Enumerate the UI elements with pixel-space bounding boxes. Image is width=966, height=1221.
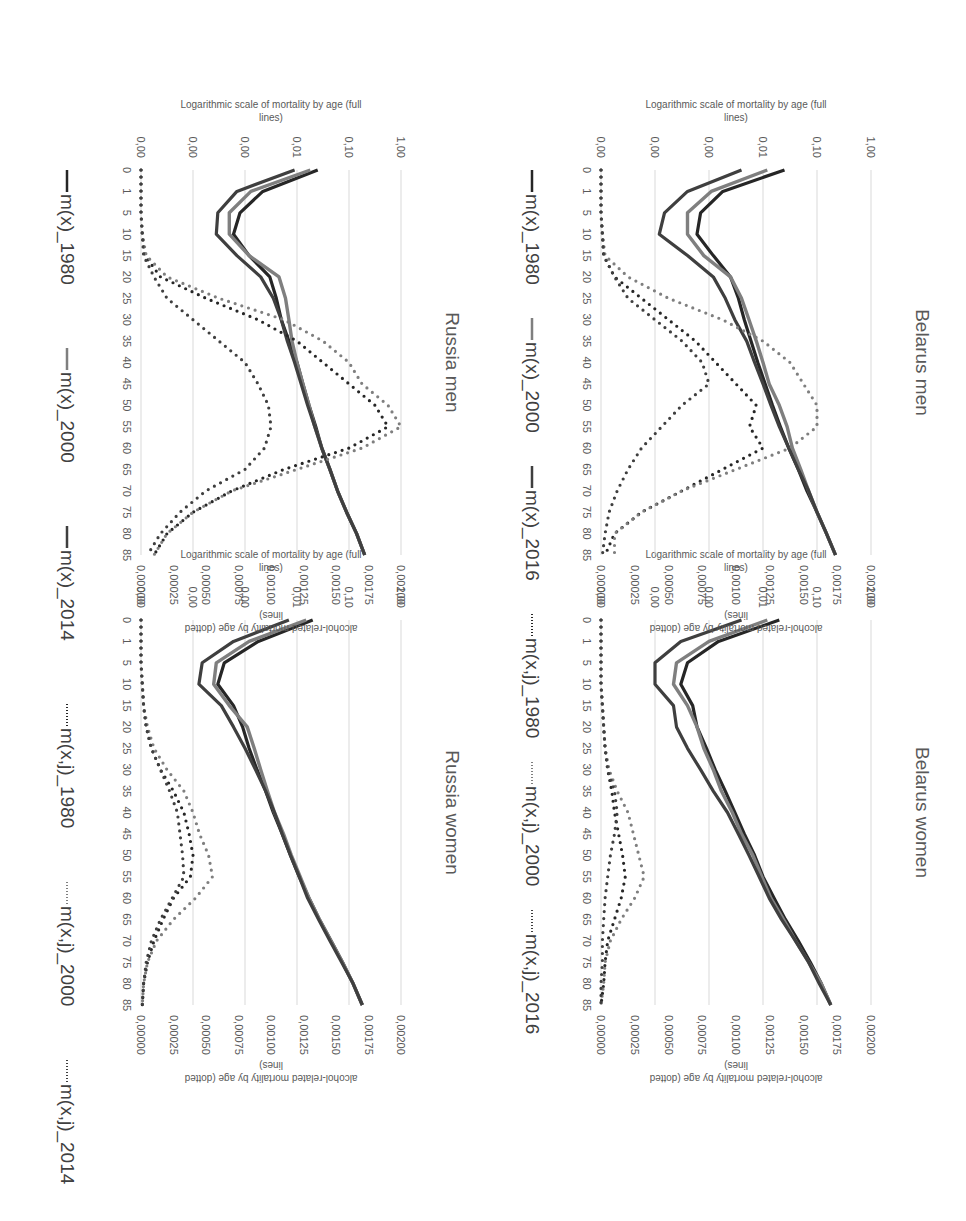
x-axis-tick: 35 — [121, 335, 133, 347]
x-axis-tick: 10 — [581, 678, 593, 690]
x-axis-tick: 40 — [121, 356, 133, 368]
right-axis-tick: 0,00200 — [395, 1015, 407, 1055]
x-axis-tick: 1 — [581, 638, 593, 644]
right-axis-tick: 0,00175 — [831, 565, 843, 605]
left-axis-tick: 0,00 — [187, 587, 199, 608]
x-axis-tick: 35 — [121, 785, 133, 797]
x-axis-tick: 85 — [121, 549, 133, 561]
x-axis-tick: 25 — [581, 292, 593, 304]
left-axis-tick: 0,10 — [811, 587, 823, 608]
series-dotted-m(x,j)_2000 — [141, 170, 401, 555]
x-axis-tick: 55 — [581, 871, 593, 883]
right-axis-tick: 0,00200 — [865, 1015, 877, 1055]
right-axis-tick: 0,00075 — [233, 565, 245, 605]
right-axis-tick: 0,00100 — [730, 1015, 742, 1055]
right-axis-tick: 0,00150 — [330, 565, 342, 605]
right-axis-tick: 0,00125 — [298, 565, 310, 605]
x-axis-tick: 5 — [581, 660, 593, 666]
x-axis-tick: 10 — [121, 228, 133, 240]
left-axis-tick: 0,10 — [811, 137, 823, 158]
legend-item: m(x)_1980 — [56, 194, 78, 285]
x-axis-tick: 75 — [121, 956, 133, 968]
x-axis-tick: 0 — [121, 167, 133, 173]
right-axis-tick: 0,00000 — [135, 565, 147, 605]
x-axis-tick: 35 — [581, 335, 593, 347]
x-axis-tick: 5 — [121, 660, 133, 666]
x-axis-tick: 15 — [581, 249, 593, 261]
panel-title: Belarus women — [912, 747, 933, 878]
legend-item: m(x,j)_1980 — [521, 638, 543, 738]
right-axis-tick: 0,00050 — [200, 1015, 212, 1055]
legend-item: m(x,j)_2000 — [521, 786, 543, 886]
x-axis-tick: 55 — [121, 421, 133, 433]
series-line-m(x)_2014 — [216, 170, 364, 555]
series-dotted-m(x,j)_2000 — [601, 620, 644, 1005]
right-axis-tick: 0,00025 — [629, 1015, 641, 1055]
right-axis-tick: 0,00050 — [663, 565, 675, 605]
x-axis-tick: 15 — [121, 249, 133, 261]
right-axis-tick: 0,00000 — [595, 565, 607, 605]
legend-item: m(x)_1980 — [521, 194, 543, 285]
x-axis-tick: 30 — [121, 764, 133, 776]
x-axis-tick: 70 — [581, 485, 593, 497]
right-axis-tick: 0,00175 — [363, 565, 375, 605]
left-axis-tick: 1,00 — [395, 137, 407, 158]
x-axis-tick: 25 — [581, 742, 593, 754]
series-dotted-m(x,j)_1980 — [601, 620, 625, 1005]
right-axis-tick: 0,00175 — [363, 1015, 375, 1055]
series-dotted-m(x,j)_2014 — [141, 170, 271, 555]
x-axis-tick: 75 — [581, 956, 593, 968]
x-axis-tick: 40 — [581, 806, 593, 818]
left-axis-tick: 0,10 — [343, 137, 355, 158]
x-axis-tick: 50 — [121, 849, 133, 861]
x-axis-tick: 15 — [121, 699, 133, 711]
right-axis-tick: 0,00125 — [764, 565, 776, 605]
right-axis-tick: 0,00075 — [233, 1015, 245, 1055]
series-dotted-m(x,j)_1980 — [141, 170, 388, 555]
right-axis-tick: 0,00100 — [265, 1015, 277, 1055]
x-axis-tick: 25 — [121, 742, 133, 754]
x-axis-tick: 45 — [581, 378, 593, 390]
right-axis-tick: 0,00200 — [865, 565, 877, 605]
legend-top: m(x)_1980m(x)_2000m(x)_2016m(x,j)_1980m(… — [521, 170, 543, 1034]
left-axis-tick: 1,00 — [865, 137, 877, 158]
legend-item: m(x,j)_2000 — [56, 906, 78, 1006]
left-axis-title: Logarithmic scale of mortality by age (f… — [180, 99, 361, 123]
left-axis-tick: 0,00 — [187, 137, 199, 158]
legend-item: m(x)_2000 — [56, 372, 78, 463]
x-axis-tick: 75 — [581, 506, 593, 518]
x-axis-tick: 0 — [581, 167, 593, 173]
series-line-m(x)_1980 — [218, 620, 363, 1005]
left-axis-tick: 0,00 — [703, 137, 715, 158]
x-axis-tick: 40 — [581, 356, 593, 368]
x-axis-tick: 65 — [121, 463, 133, 475]
x-axis-tick: 85 — [581, 549, 593, 561]
x-axis-tick: 45 — [581, 828, 593, 840]
right-axis-tick: 0,00150 — [798, 1015, 810, 1055]
series-dotted-m(x,j)_2000 — [141, 620, 213, 1005]
x-axis-tick: 35 — [581, 785, 593, 797]
x-axis-tick: 65 — [121, 913, 133, 925]
right-axis-tick: 0,00100 — [265, 565, 277, 605]
left-axis-tick: 0,01 — [291, 137, 303, 158]
right-axis-title: alcohol-related mortality by age (dotted… — [185, 610, 358, 634]
x-axis-tick: 40 — [121, 806, 133, 818]
x-axis-tick: 10 — [121, 678, 133, 690]
x-axis-tick: 0 — [581, 617, 593, 623]
right-axis-tick: 0,00050 — [200, 565, 212, 605]
series-line-m(x)_2000 — [688, 170, 836, 555]
legend-item: m(x)_2016 — [521, 490, 543, 581]
x-axis-tick: 85 — [121, 999, 133, 1011]
x-axis-tick: 1 — [581, 188, 593, 194]
right-axis-title: alcohol-related mortality by age (dotted… — [185, 1060, 358, 1084]
right-axis-title: alcohol-related mortality by age (dotted… — [650, 1060, 823, 1084]
x-axis-tick: 0 — [121, 617, 133, 623]
right-axis-tick: 0,00075 — [696, 1015, 708, 1055]
x-axis-tick: 50 — [581, 399, 593, 411]
panel-title: Belarus men — [912, 309, 933, 416]
right-axis-tick: 0,00025 — [168, 565, 180, 605]
right-axis-tick: 0,00000 — [135, 1015, 147, 1055]
legend-item: m(x,j)_2016 — [521, 934, 543, 1034]
right-axis-tick: 0,00075 — [696, 565, 708, 605]
series-line-m(x)_1980 — [697, 170, 836, 555]
